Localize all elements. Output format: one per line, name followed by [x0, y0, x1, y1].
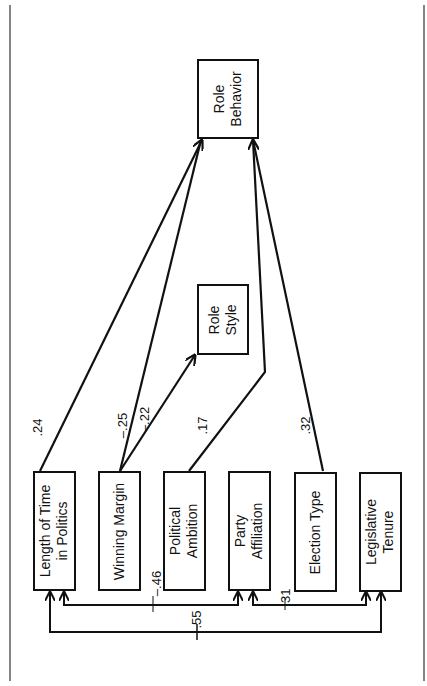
node-label: Behavior	[228, 71, 244, 126]
node-winning-margin: Winning Margin	[98, 471, 141, 591]
coef-length-behavior: .24	[30, 418, 45, 436]
node-label: Style	[223, 304, 239, 335]
coef-length-party: –.46	[149, 571, 164, 596]
node-label: Role	[211, 85, 227, 114]
corr-party-tenure	[253, 592, 366, 605]
path-winning-to-behavior	[120, 140, 201, 471]
node-label: Length of Time	[38, 485, 54, 578]
node-label: Legislative	[364, 499, 380, 565]
node-label: Party	[233, 515, 249, 548]
node-length-of-time: Length of Timein Politics	[33, 471, 76, 591]
coef-election-behavior: .32	[298, 416, 313, 434]
node-label: Election Type	[307, 490, 323, 574]
coef-party-tenure: .31	[278, 588, 293, 606]
path-winning-to-style	[120, 355, 195, 471]
coef-length-tenure: .55	[189, 610, 204, 628]
coef-ambition-behavior: .17	[195, 416, 210, 434]
node-party-affiliation: PartyAffiliation	[228, 471, 271, 591]
node-label: Tenure	[381, 511, 397, 554]
node-role-behavior: RoleBehavior	[197, 59, 259, 139]
node-legislative-tenure: LegislativeTenure	[359, 472, 402, 592]
corr-length-tenure	[50, 592, 381, 632]
node-role-style: RoleStyle	[197, 284, 249, 355]
node-label: Ambition	[185, 504, 201, 558]
node-political-ambition: PoliticalAmbition	[163, 471, 206, 591]
coef-winning-style: –.22	[137, 407, 152, 432]
node-election-type: Election Type	[294, 472, 337, 592]
node-label: Winning Margin	[111, 482, 127, 579]
node-label: Political	[168, 507, 184, 555]
node-label: in Politics	[55, 501, 71, 560]
node-label: Role	[206, 305, 222, 334]
coef-winning-behavior: –.25	[115, 413, 130, 438]
node-label: Affiliation	[250, 503, 266, 560]
